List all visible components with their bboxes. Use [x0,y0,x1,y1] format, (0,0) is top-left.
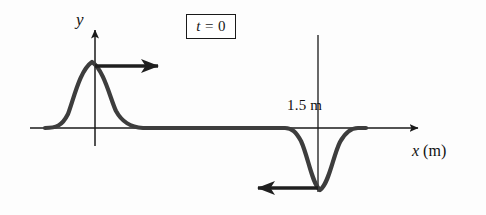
time-annotation-text: t = 0 [196,18,226,35]
time-variable: t [196,18,201,34]
y-axis-label: y [76,11,84,28]
time-value: = 0 [205,18,226,34]
x-axis-label-variable: x [412,142,419,159]
x-axis-label-units: (m) [423,142,446,159]
x-axis-label: x (m) [412,143,446,159]
distance-label: 1.5 m [287,98,322,113]
time-annotation-box: t = 0 [186,14,236,39]
wave-pulse-figure: y x (m) 1.5 m t = 0 [0,0,486,215]
wave-diagram-svg [0,0,486,215]
